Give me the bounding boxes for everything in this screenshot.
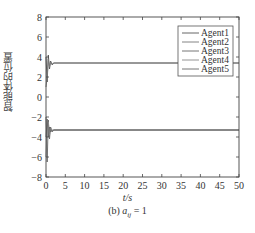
- x-tick-label: 0: [44, 180, 49, 191]
- y-tick-label: −2: [31, 112, 42, 123]
- x-tick-label: 40: [195, 180, 205, 191]
- figure-caption: (b) aij = 1: [0, 205, 255, 219]
- y-tick-label: −6: [31, 152, 42, 163]
- y-tick-label: 6: [37, 32, 42, 43]
- x-axis-label-text: t/s: [123, 192, 132, 203]
- x-tick-label: 10: [80, 180, 90, 191]
- series-line-agent4: [46, 122, 239, 157]
- y-tick-label: 2: [37, 72, 42, 83]
- x-tick-label: 20: [118, 180, 128, 191]
- x-tick-label: 5: [63, 180, 68, 191]
- series-line-agent3: [46, 117, 239, 162]
- x-tick-label: 15: [99, 180, 109, 191]
- series-line-agent5: [46, 119, 239, 137]
- legend: Agent1Agent2Agent3Agent4Agent5: [178, 26, 233, 76]
- caption-subscript: ij: [127, 211, 131, 219]
- x-tick-label: 45: [215, 180, 225, 191]
- x-tick-label: 25: [138, 180, 148, 191]
- x-tick-label: 35: [176, 180, 186, 191]
- y-tick-label: 0: [37, 92, 42, 103]
- x-axis-label: t/s: [0, 192, 255, 203]
- x-tick-label: 50: [234, 180, 244, 191]
- caption-rhs: = 1: [134, 205, 147, 216]
- legend-label: Agent5: [201, 64, 229, 74]
- y-axis-label: 智能体的位置: [3, 52, 17, 112]
- y-tick-label: 4: [37, 52, 42, 63]
- x-tick-label: 30: [157, 180, 167, 191]
- y-tick-label: −4: [31, 132, 42, 143]
- y-tick-label: −8: [31, 172, 42, 183]
- caption-prefix: (b): [108, 205, 120, 216]
- y-tick-label: 8: [37, 12, 42, 23]
